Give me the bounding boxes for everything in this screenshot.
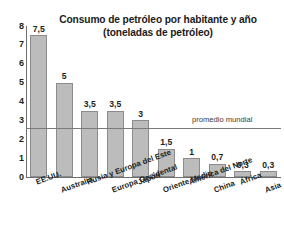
bar [81,111,98,177]
promedio-mundial-line [26,128,281,129]
y-axis-tick-5: 5 [2,78,24,87]
bar-value-label: 3 [138,110,143,119]
chart-title-line-1: Consumo de petróleo por habitante y año [36,14,280,27]
bar-value-label: 3,5 [109,100,121,109]
y-axis-tick-3: 3 [2,116,24,125]
bar [260,171,277,177]
x-axis-label-7: China [213,180,236,195]
y-axis-tick-6: 6 [2,59,24,68]
y-axis-tick-4: 4 [2,97,24,106]
bar-value-label: 0,3 [262,161,274,170]
y-axis-tick-7: 7 [2,40,24,49]
bar-value-label: 1,5 [160,138,172,147]
y-axis-tick-0: 0 [2,173,24,182]
y-axis-tick-8: 8 [2,22,24,31]
promedio-mundial-label: promedio mundial [192,116,252,124]
bar-group: 5 [52,72,78,177]
bar-chart: Consumo de petróleo por habitante y año … [0,0,284,237]
y-axis-tick-labels: 012345678 [0,0,24,237]
bar-group: 7,5 [26,25,52,177]
bar [56,83,73,177]
bar-value-label: 1 [189,148,194,157]
bar [30,35,47,177]
bar-value-label: 3,5 [84,100,96,109]
bar-value-label: 5 [62,72,67,81]
bar-value-label: 7,5 [33,25,45,34]
bar-value-label: 0,7 [211,153,223,162]
bar-group: 3,5 [77,100,103,177]
y-axis-tick-2: 2 [2,135,24,144]
x-axis-label-9: Asia [264,181,282,194]
y-axis-tick-1: 1 [2,154,24,163]
x-axis-category-labels: EE.UU.AustraliaRusia y Europa del EsteEu… [26,178,281,237]
